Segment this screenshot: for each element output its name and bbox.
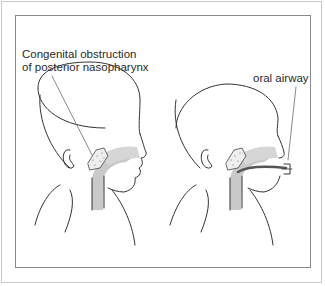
illustration xyxy=(0,0,325,286)
ear-left xyxy=(63,150,74,168)
obstruction-leader xyxy=(52,76,92,155)
ear-right xyxy=(201,150,212,168)
infant-with-obstruction xyxy=(35,62,146,245)
infant-with-oral-airway xyxy=(170,84,296,245)
oral-airway-leader xyxy=(288,87,296,160)
